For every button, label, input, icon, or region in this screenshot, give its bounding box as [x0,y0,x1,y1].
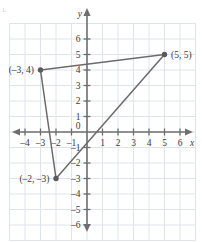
y-axis-tick-label: –6 [70,220,81,230]
x-axis-name: x [189,138,195,148]
label-vertex-b: (5, 5) [171,50,192,61]
y-axis-tick-label: –5 [70,205,81,215]
origin-label: 0 [76,121,81,131]
point-vertex-b [162,52,167,57]
y-axis-arrow-top [83,8,90,16]
figure-number-mark: 1. [2,7,7,13]
coordinate-plane-svg: –4–3–2–1123456–6–5–4–3–2–11234560 (–3, 4… [0,0,202,242]
axis-names: xy [77,9,195,148]
x-axis-tick-label: –3 [35,138,46,148]
y-axis-tick-label: 5 [76,50,81,60]
label-vertex-c: (–2, –3) [19,174,49,185]
x-axis-tick-label: 4 [147,138,152,148]
x-axis-tick-label: 3 [131,138,136,148]
label-vertex-a: (–3, 4) [9,65,34,76]
coordinate-plane-figure: –4–3–2–1123456–6–5–4–3–2–11234560 (–3, 4… [0,0,202,242]
x-axis-arrow-right [185,128,193,135]
y-axis-tick-label: –3 [70,174,81,184]
y-axis-tick-label: 6 [76,34,81,44]
x-axis-tick-label: 2 [116,138,121,148]
y-axis-tick-label: 2 [76,96,81,106]
point-vertex-a [38,67,43,72]
y-axis-tick-label: 4 [76,65,81,75]
x-axis-arrow-left [12,128,20,135]
y-axis-tick-label: –4 [70,189,81,199]
x-axis-tick-label: 5 [162,138,167,148]
x-axis-tick-label: –4 [19,138,30,148]
point-vertex-c [53,176,58,181]
x-axis-tick-label: 1 [100,138,105,148]
x-axis-tick-label: 6 [178,138,183,148]
figure-number-text: 1. [2,7,7,13]
y-axis-name: y [77,9,83,19]
y-axis-tick-label: 3 [76,81,81,91]
